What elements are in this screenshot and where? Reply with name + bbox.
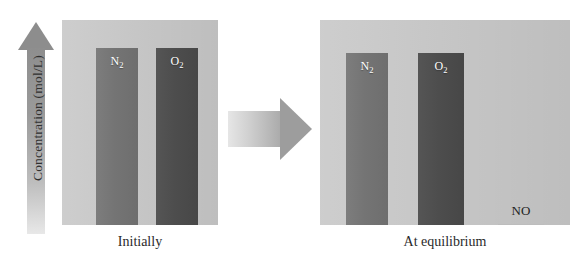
equilibrium-concentration-figure: Concentration (mol/L) N2 O2 Initially N2…: [0, 0, 577, 267]
bar-o2-equilibrium: O2: [418, 53, 464, 225]
panel-initially: N2 O2: [62, 20, 218, 225]
panel-at-equilibrium: N2 O2 NO: [320, 20, 570, 225]
bar-label-o2: O2: [156, 54, 198, 69]
bar-no-equilibrium: NO: [498, 224, 544, 225]
bar-label-o2: O2: [418, 59, 464, 74]
bar-o2-initial: O2: [156, 48, 198, 225]
concentration-axis: Concentration (mol/L): [14, 22, 58, 234]
right-arrow-icon: [228, 98, 312, 160]
bar-label-n2: N2: [346, 59, 388, 74]
caption-initially: Initially: [62, 234, 218, 250]
bar-n2-equilibrium: N2: [346, 53, 388, 225]
caption-at-equilibrium: At equilibrium: [320, 234, 570, 250]
y-axis-label: Concentration (mol/L): [30, 30, 46, 206]
bar-label-no: NO: [498, 203, 544, 219]
arrow-head: [280, 98, 312, 160]
arrow-body: [228, 111, 282, 147]
bar-label-n2: N2: [96, 54, 138, 69]
bar-n2-initial: N2: [96, 48, 138, 225]
